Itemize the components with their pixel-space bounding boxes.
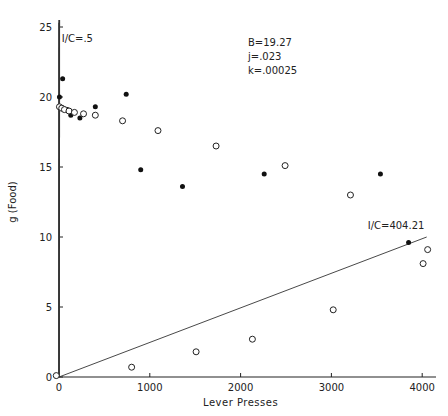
filled-data-point: [180, 184, 185, 189]
line-annotation: I/C=404.21: [368, 220, 425, 231]
model-lines: [59, 20, 427, 377]
model-line: [59, 237, 427, 377]
filled-data-point: [93, 104, 98, 109]
open-data-point: [71, 109, 77, 115]
open-data-point: [155, 128, 161, 134]
open-data-point: [129, 364, 135, 370]
filled-data-point: [262, 172, 267, 177]
filled-data-point: [378, 172, 383, 177]
chart-labels: Lever Pressesg (Food)I/C=.5I/C=404.21B=1…: [7, 33, 424, 408]
parameter-label: k=.00025: [248, 65, 297, 76]
open-data-point: [330, 307, 336, 313]
filled-data-point: [60, 76, 65, 81]
x-tick-label: 1000: [137, 382, 162, 393]
axes: 010002000300040000510152025: [39, 22, 436, 393]
y-tick-label: 5: [46, 302, 52, 313]
y-tick-label: 20: [39, 92, 52, 103]
open-data-point: [420, 261, 426, 267]
open-data-point: [249, 336, 255, 342]
x-axis-label: Lever Presses: [203, 397, 278, 408]
y-tick-label: 25: [39, 22, 52, 33]
open-data-point: [92, 112, 98, 118]
line-annotation: I/C=.5: [62, 33, 93, 44]
open-data-point: [347, 192, 353, 198]
open-data-point: [193, 349, 199, 355]
x-tick-label: 3000: [319, 382, 344, 393]
x-tick-label: 4000: [409, 382, 434, 393]
open-data-point: [120, 118, 126, 124]
filled-data-point: [57, 95, 62, 100]
open-data-point: [81, 111, 87, 117]
parameter-label: j=.023: [247, 51, 281, 62]
filled-data-point: [138, 167, 143, 172]
x-tick-label: 2000: [228, 382, 253, 393]
open-data-point: [425, 247, 431, 253]
open-data-point: [53, 373, 59, 379]
filled-data-point: [124, 92, 129, 97]
parameter-label: B=19.27: [248, 37, 292, 48]
x-tick-label: 0: [56, 382, 62, 393]
open-data-point: [282, 163, 288, 169]
open-data-point: [213, 143, 219, 149]
y-axis-label: g (Food): [7, 181, 18, 222]
y-tick-label: 10: [39, 232, 52, 243]
y-tick-label: 0: [46, 372, 52, 383]
y-tick-label: 15: [39, 162, 52, 173]
scatter-chart: 010002000300040000510152025 Lever Presse…: [0, 0, 448, 416]
filled-data-point: [406, 240, 411, 245]
